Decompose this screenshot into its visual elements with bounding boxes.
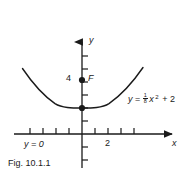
figure-caption: Fig. 10.1.1 — [8, 158, 51, 168]
equation-lhs: y — [128, 95, 133, 104]
parabola-plot — [0, 0, 187, 179]
x-axis-label: x — [172, 139, 177, 148]
fraction-denominator: 8 — [143, 98, 148, 105]
equation-constant: 2 — [170, 95, 175, 104]
equation-plus-sign: + — [162, 95, 167, 104]
parabola-curve — [23, 68, 144, 109]
focus-label: F — [88, 74, 94, 83]
vertex-point-marker — [79, 105, 85, 111]
directrix-label: y = 0 — [24, 140, 44, 149]
y-tick-label-4: 4 — [66, 74, 71, 83]
equation-exponent: 2 — [155, 94, 158, 100]
equation-variable: x — [149, 95, 154, 104]
equation-equals-sign: = — [135, 95, 140, 104]
equation-label: y = 1 8 x 2 + 2 — [128, 93, 175, 105]
x-tick-label-2: 2 — [105, 139, 110, 148]
equation-fraction: 1 8 — [143, 93, 148, 105]
figure-container: y x 4 2 F y = 0 y = 1 8 x 2 + 2 Fig. 10.… — [0, 0, 187, 179]
focus-point-marker — [79, 77, 85, 83]
y-axis-label: y — [89, 36, 94, 45]
